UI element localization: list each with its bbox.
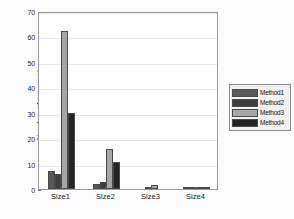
plot-area [38, 12, 218, 190]
legend-swatch [232, 119, 258, 127]
bar[interactable] [113, 162, 120, 189]
y-axis-tick-labels: 010203040506070 [14, 12, 35, 190]
y-axis-tick-label: 30 [27, 110, 35, 117]
legend-label: Method1 [260, 89, 284, 96]
bar[interactable] [61, 31, 68, 189]
x-axis-tick-mark [151, 187, 152, 190]
bar-group [138, 13, 166, 189]
x-axis-tick-label: Size1 [51, 192, 70, 201]
y-axis-tick-label: 70 [27, 9, 35, 16]
legend-label: Method2 [260, 99, 284, 106]
legend-item[interactable]: Method2 [232, 98, 288, 107]
legend-item[interactable]: Method1 [232, 88, 288, 97]
x-axis-tick-label: Size2 [96, 192, 115, 201]
y-axis-tick-label: 60 [27, 34, 35, 41]
legend-item[interactable]: Method3 [232, 108, 288, 117]
bar-group [48, 13, 76, 189]
y-axis-tick-label: 0 [31, 187, 35, 194]
y-axis-tick-label: 40 [27, 85, 35, 92]
legend-label: Method3 [260, 109, 284, 116]
y-axis-label-container: Number of companies [0, 12, 14, 190]
x-axis-tick-mark [106, 187, 107, 190]
legend-label: Method4 [260, 119, 284, 126]
y-axis-tick-label: 10 [27, 161, 35, 168]
x-axis-tick-mark [196, 187, 197, 190]
y-axis-tick-mark [38, 190, 41, 191]
y-axis-tick-label: 20 [27, 136, 35, 143]
legend-item[interactable]: Method4 [232, 118, 288, 127]
chart-legend[interactable]: Method1Method2Method3Method4 [229, 84, 291, 131]
legend-swatch [232, 89, 258, 97]
x-axis-tick-mark [61, 187, 62, 190]
y-axis-tick-label: 50 [27, 59, 35, 66]
bar-group [183, 13, 211, 189]
x-axis-tick-marks [38, 187, 218, 190]
x-axis-tick-label: Size4 [186, 192, 205, 201]
bar-group [93, 13, 121, 189]
legend-swatch [232, 99, 258, 107]
bar[interactable] [106, 149, 113, 189]
legend-swatch [232, 109, 258, 117]
chart-figure: Number of companies 010203040506070 Size… [0, 0, 294, 219]
x-axis-tick-labels: Size1Size2Size3Size4 [38, 192, 218, 206]
bar[interactable] [68, 113, 75, 189]
x-axis-tick-label: Size3 [141, 192, 160, 201]
